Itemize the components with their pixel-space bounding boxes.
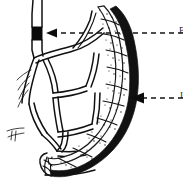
figure-root: E I (0, 0, 183, 188)
embolus-plug (32, 27, 43, 41)
mesenteric-embolus-illustration (0, 0, 183, 188)
embolus-label: E (179, 25, 183, 59)
infarcted-bowel-label: I (180, 90, 183, 124)
